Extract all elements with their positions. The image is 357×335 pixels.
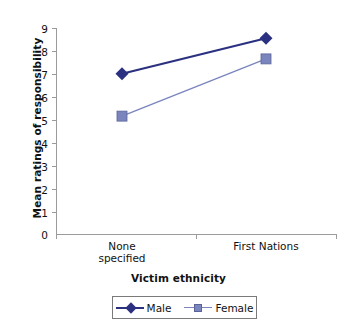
- y-tick-label-4: 4: [32, 139, 48, 150]
- y-tick-label-2: 2: [32, 185, 48, 196]
- y-tick-mark-7: [52, 74, 56, 75]
- legend-label-female: Female: [215, 302, 253, 314]
- legend-item-female[interactable]: Female: [184, 302, 253, 314]
- y-tick-mark-6: [52, 97, 56, 98]
- y-tick-mark-4: [52, 143, 56, 144]
- y-tick-mark-3: [52, 166, 56, 167]
- x-tick-label-none-specified: None specified: [72, 240, 172, 264]
- y-tick-label-5: 5: [32, 116, 48, 127]
- x-axis-title: Victim ethnicity: [0, 272, 357, 284]
- x-tick-mark-start: [56, 234, 57, 239]
- y-tick-label-9: 9: [32, 24, 48, 35]
- legend-marker-square-icon: [184, 302, 212, 314]
- y-tick-mark-8: [52, 51, 56, 52]
- y-tick-label-6: 6: [32, 93, 48, 104]
- y-tick-label-8: 8: [32, 47, 48, 58]
- series-female: [117, 54, 271, 121]
- series-male: [116, 32, 273, 80]
- y-tick-mark-9: [52, 28, 56, 29]
- line-chart: Mean ratings of responsibility 9 8 7 6 5…: [0, 0, 357, 335]
- y-tick-label-1: 1: [32, 208, 48, 219]
- legend-label-male: Male: [147, 302, 172, 314]
- x-tick-mark-end: [336, 234, 337, 239]
- y-tick-label-0: 0: [32, 230, 48, 241]
- y-tick-mark-5: [52, 120, 56, 121]
- x-tick-mark-mid: [196, 234, 197, 239]
- chart-legend: Male Female: [112, 296, 257, 319]
- legend-item-male[interactable]: Male: [116, 302, 172, 314]
- y-axis-line: [56, 28, 57, 235]
- x-tick-label-first-nations: First Nations: [216, 240, 316, 252]
- y-tick-mark-2: [52, 189, 56, 190]
- y-tick-mark-1: [52, 212, 56, 213]
- y-tick-label-3: 3: [32, 162, 48, 173]
- legend-marker-diamond-icon: [116, 302, 144, 314]
- y-tick-label-7: 7: [32, 70, 48, 81]
